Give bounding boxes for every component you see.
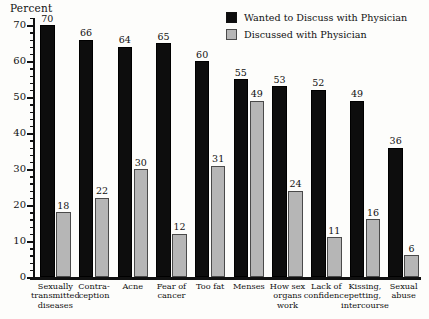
bar-group: 6512 <box>156 18 187 277</box>
y-tick-label: 30 <box>2 163 26 174</box>
bar-group: 5324 <box>272 18 303 277</box>
legend-item: Wanted to Discuss with Physician <box>226 12 407 23</box>
y-tick-minor <box>30 83 35 84</box>
bar-light <box>404 255 419 277</box>
bar-value-label: 49 <box>342 88 372 99</box>
y-tick-minor <box>30 191 35 192</box>
bar-light <box>172 234 187 277</box>
y-tick-minor <box>30 90 35 91</box>
bar-value-label: 53 <box>265 74 295 85</box>
y-tick-minor <box>30 112 35 113</box>
x-axis-tick-labels: SexuallytransmitteddiseasesContra-ceptio… <box>36 282 423 319</box>
bar-value-label: 64 <box>110 34 140 45</box>
bar-value-label: 11 <box>319 225 349 236</box>
bar-value-label: 65 <box>148 31 178 42</box>
y-tick-major <box>27 25 34 27</box>
bar-value-label: 60 <box>187 49 217 60</box>
bar-light <box>56 212 71 277</box>
y-tick-minor <box>30 119 35 120</box>
bar-dark <box>350 101 365 277</box>
y-axis-tick-labels: 010203040506070 <box>0 0 26 319</box>
y-tick-label: 50 <box>2 91 26 102</box>
y-tick-label: 40 <box>2 127 26 138</box>
y-tick-minor <box>30 183 35 184</box>
bar-light <box>288 191 303 277</box>
y-tick-label: 70 <box>2 19 26 30</box>
bar-value-label: 55 <box>226 67 256 78</box>
bar-value-label: 30 <box>126 157 156 168</box>
y-tick-minor <box>30 248 35 249</box>
bar-group: 5549 <box>234 18 265 277</box>
bar-dark <box>40 25 55 277</box>
legend-swatch-discussed <box>226 29 237 40</box>
bar-group: 5211 <box>311 18 342 277</box>
bar-value-label: 22 <box>87 185 117 196</box>
y-tick-minor <box>30 227 35 228</box>
bar-dark <box>195 61 210 277</box>
y-tick-major <box>27 241 34 243</box>
y-tick-minor <box>30 270 35 271</box>
bar-value-label: 66 <box>71 27 101 38</box>
y-tick-minor <box>30 68 35 69</box>
bar-value-label: 6 <box>397 243 427 254</box>
bar-value-label: 16 <box>358 207 388 218</box>
bar-value-label: 49 <box>242 88 272 99</box>
bar-group: 366 <box>388 18 419 277</box>
y-tick-minor <box>30 148 35 149</box>
y-tick-minor <box>30 176 35 177</box>
bar-chart: Percent 010203040506070 7018662264306512… <box>0 0 429 319</box>
y-tick-major <box>27 97 34 99</box>
bar-group: 6622 <box>79 18 110 277</box>
bar-light <box>366 219 381 277</box>
bar-dark <box>234 79 249 277</box>
y-tick-minor <box>30 234 35 235</box>
y-tick-minor <box>30 263 35 264</box>
y-tick-major <box>27 133 34 135</box>
y-tick-label: 20 <box>2 199 26 210</box>
y-tick-minor <box>30 255 35 256</box>
bar-value-label: 24 <box>281 178 311 189</box>
bar-group: 4916 <box>350 18 381 277</box>
plot-area: 701866226430651260315549532452114916366 <box>36 18 423 277</box>
bar-light <box>211 166 226 278</box>
y-tick-major <box>27 205 34 207</box>
y-tick-minor <box>30 198 35 199</box>
bar-dark <box>311 90 326 277</box>
y-tick-minor <box>30 162 35 163</box>
bar-value-label: 36 <box>381 135 411 146</box>
y-tick-minor <box>30 140 35 141</box>
y-tick-major <box>27 61 34 63</box>
y-tick-minor <box>30 212 35 213</box>
bar-dark <box>156 43 171 277</box>
y-tick-minor <box>30 76 35 77</box>
y-tick-minor <box>30 104 35 105</box>
y-tick-label: 10 <box>2 235 26 246</box>
chart-legend: Wanted to Discuss with Physician Discuss… <box>226 12 407 46</box>
bar-value-label: 18 <box>48 200 78 211</box>
legend-label-wanted: Wanted to Discuss with Physician <box>244 12 407 23</box>
legend-label-discussed: Discussed with Physician <box>244 29 367 40</box>
bar-group: 6430 <box>118 18 149 277</box>
legend-swatch-wanted <box>226 12 237 23</box>
y-tick-minor <box>30 219 35 220</box>
bar-value-label: 52 <box>303 77 333 88</box>
y-tick-major <box>27 169 34 171</box>
bar-value-label: 70 <box>32 13 62 24</box>
x-tick-label: Sexualabuse <box>378 282 429 301</box>
bar-light <box>327 237 342 277</box>
legend-item: Discussed with Physician <box>226 29 407 40</box>
y-tick-minor <box>30 126 35 127</box>
bar-dark <box>388 148 403 278</box>
bar-dark <box>79 40 94 277</box>
bar-light <box>134 169 149 277</box>
y-tick-minor <box>30 40 35 41</box>
y-tick-minor <box>30 32 35 33</box>
y-tick-minor <box>30 155 35 156</box>
bar-light <box>250 101 265 277</box>
x-axis-line <box>30 277 421 280</box>
y-tick-label: 60 <box>2 55 26 66</box>
bar-group: 6031 <box>195 18 226 277</box>
bar-value-label: 12 <box>164 221 194 232</box>
y-tick-major <box>27 277 34 279</box>
bar-value-label: 31 <box>203 153 233 164</box>
